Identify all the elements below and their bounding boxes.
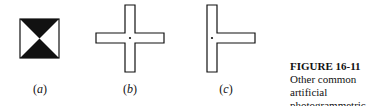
target-a-square (20, 19, 59, 58)
panel-label-a: (a) (33, 82, 47, 97)
target-b-cross (96, 5, 164, 72)
panel-label-c: (c) (219, 82, 232, 97)
target-c-tee (207, 5, 255, 72)
figure-caption: FIGURE 16-11 Other common artificial pho… (290, 60, 389, 106)
figure-number: FIGURE 16-11 (290, 60, 389, 73)
center-dot-b (129, 37, 131, 39)
caption-line-2: photogrammetric targets. (290, 99, 389, 106)
caption-line-1: Other common artificial (290, 73, 389, 99)
panel-label-b: (b) (123, 82, 137, 97)
center-dot-c (211, 37, 213, 39)
